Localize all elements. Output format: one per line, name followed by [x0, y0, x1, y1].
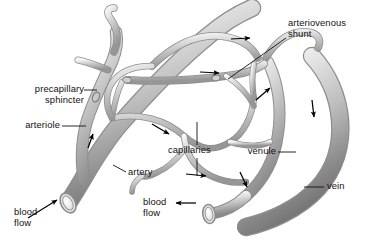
arrow-vein-down — [312, 100, 314, 117]
label-precapillary-sphincter: precapillary sphincter — [6, 84, 84, 105]
arrow-shunt-up — [256, 88, 270, 100]
arrow-capillary-2 — [200, 72, 219, 73]
label-blood-flow-left: blood flow — [14, 207, 37, 228]
label-capillaries: capillaries — [168, 145, 211, 156]
sphincter-ring-3 — [211, 75, 220, 82]
label-artery: artery — [128, 167, 153, 178]
label-vein: vein — [327, 181, 345, 192]
capillary-bed-diagram: precapillary sphincter arteriole artery … — [0, 0, 372, 243]
label-venule: venule — [228, 146, 276, 157]
label-arteriovenous-shunt: arteriovenous shunt — [288, 18, 346, 39]
label-arteriole: arteriole — [6, 120, 60, 131]
label-blood-flow-bottom: blood flow — [143, 197, 166, 218]
leader-artery — [113, 165, 126, 172]
